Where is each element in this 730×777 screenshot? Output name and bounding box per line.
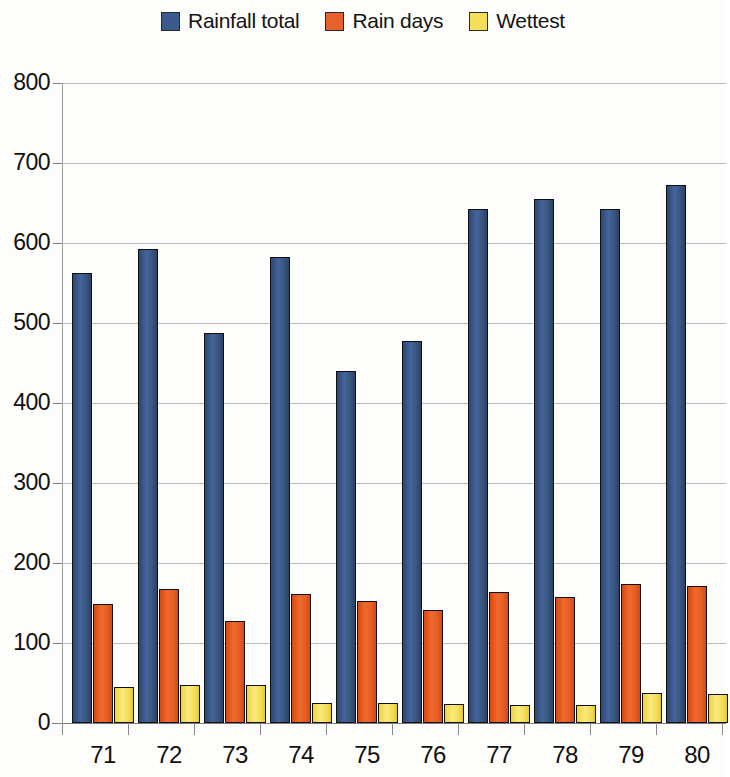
bar-rain-days-76[interactable] xyxy=(423,610,443,723)
bar-wettest-77[interactable] xyxy=(510,705,530,723)
y-axis-tick-mark xyxy=(53,563,62,564)
bar-rain-days-72[interactable] xyxy=(159,589,179,723)
bar-group xyxy=(204,83,266,723)
x-axis-tick-label: 72 xyxy=(136,741,202,769)
x-axis-tick-label: 80 xyxy=(664,741,730,769)
legend-swatch-wettest xyxy=(469,12,488,31)
bar-rainfall-total-77[interactable] xyxy=(468,209,488,723)
bar-rainfall-total-80[interactable] xyxy=(666,185,686,723)
legend-label-wettest: Wettest xyxy=(496,9,565,33)
bar-group xyxy=(534,83,596,723)
y-axis-tick-mark xyxy=(53,483,62,484)
bar-group xyxy=(72,83,134,723)
bar-rain-days-78[interactable] xyxy=(555,597,575,723)
legend-entry-rain-days: Rain days xyxy=(325,9,443,33)
x-axis-tick-label: 76 xyxy=(400,741,466,769)
x-axis-tick-mark xyxy=(656,723,657,735)
bar-rainfall-total-75[interactable] xyxy=(336,371,356,723)
bar-rain-days-71[interactable] xyxy=(93,604,113,723)
plot-area: 0100200300400500600700800717273747576777… xyxy=(62,83,726,723)
y-axis-tick-mark xyxy=(53,403,62,404)
legend-swatch-rainfall-total xyxy=(161,12,180,31)
bar-group xyxy=(336,83,398,723)
bar-rainfall-total-72[interactable] xyxy=(138,249,158,723)
bar-rain-days-74[interactable] xyxy=(291,594,311,723)
x-axis-tick-mark xyxy=(524,723,525,735)
y-axis-tick-label: 800 xyxy=(0,69,50,96)
x-axis-tick-mark xyxy=(326,723,327,735)
y-axis-tick-label: 300 xyxy=(0,469,50,496)
x-axis-tick-mark xyxy=(590,723,591,735)
x-axis-tick-label: 77 xyxy=(466,741,532,769)
bar-wettest-80[interactable] xyxy=(708,694,728,723)
legend-entry-rainfall-total: Rainfall total xyxy=(161,9,299,33)
bar-group xyxy=(402,83,464,723)
y-axis-tick-label: 700 xyxy=(0,149,50,176)
y-axis-tick-label: 600 xyxy=(0,229,50,256)
bar-rainfall-total-71[interactable] xyxy=(72,273,92,723)
x-axis-tick-mark xyxy=(260,723,261,735)
y-axis-tick-label: 400 xyxy=(0,389,50,416)
y-axis-tick-mark xyxy=(53,83,62,84)
bar-wettest-78[interactable] xyxy=(576,705,596,723)
legend-label-rain-days: Rain days xyxy=(352,9,443,33)
bar-group xyxy=(666,83,728,723)
x-axis-tick-mark xyxy=(392,723,393,735)
y-axis-tick-mark xyxy=(53,643,62,644)
x-axis-tick-label: 78 xyxy=(532,741,598,769)
bar-rain-days-79[interactable] xyxy=(621,584,641,723)
legend-swatch-rain-days xyxy=(325,12,344,31)
y-axis-tick-mark xyxy=(53,163,62,164)
legend-entry-wettest: Wettest xyxy=(469,9,565,33)
chart-legend: Rainfall total Rain days Wettest xyxy=(0,4,726,38)
bar-group xyxy=(270,83,332,723)
bar-rainfall-total-79[interactable] xyxy=(600,209,620,723)
bar-group xyxy=(600,83,662,723)
x-axis-tick-label: 74 xyxy=(268,741,334,769)
bar-wettest-72[interactable] xyxy=(180,685,200,723)
x-axis-tick-mark xyxy=(194,723,195,735)
bar-wettest-76[interactable] xyxy=(444,704,464,723)
x-axis-tick-mark xyxy=(128,723,129,735)
y-axis-tick-label: 200 xyxy=(0,549,50,576)
bar-wettest-74[interactable] xyxy=(312,703,332,723)
bar-rainfall-total-74[interactable] xyxy=(270,257,290,723)
y-axis-tick-label: 0 xyxy=(0,709,50,736)
x-axis-tick-label: 73 xyxy=(202,741,268,769)
x-axis-tick-label: 75 xyxy=(334,741,400,769)
bar-group xyxy=(138,83,200,723)
x-axis-tick-label: 71 xyxy=(70,741,136,769)
y-axis-tick-label: 500 xyxy=(0,309,50,336)
x-axis-tick-mark xyxy=(722,723,723,735)
bar-wettest-73[interactable] xyxy=(246,685,266,723)
x-axis-tick-mark xyxy=(62,723,63,735)
bar-rain-days-75[interactable] xyxy=(357,601,377,723)
bar-wettest-71[interactable] xyxy=(114,687,134,723)
y-axis-tick-label: 100 xyxy=(0,629,50,656)
bar-wettest-75[interactable] xyxy=(378,703,398,723)
x-axis-line xyxy=(52,723,726,724)
bar-rain-days-80[interactable] xyxy=(687,586,707,723)
bar-rainfall-total-78[interactable] xyxy=(534,199,554,723)
y-axis-tick-mark xyxy=(53,243,62,244)
y-axis-tick-mark xyxy=(53,723,62,724)
y-axis-tick-mark xyxy=(53,323,62,324)
bar-rain-days-73[interactable] xyxy=(225,621,245,723)
bar-rainfall-total-73[interactable] xyxy=(204,333,224,723)
bar-group xyxy=(468,83,530,723)
legend-label-rainfall-total: Rainfall total xyxy=(188,9,299,33)
x-axis-tick-label: 79 xyxy=(598,741,664,769)
bar-rain-days-77[interactable] xyxy=(489,592,509,723)
bar-rainfall-total-76[interactable] xyxy=(402,341,422,723)
bar-wettest-79[interactable] xyxy=(642,693,662,723)
x-axis-tick-mark xyxy=(458,723,459,735)
